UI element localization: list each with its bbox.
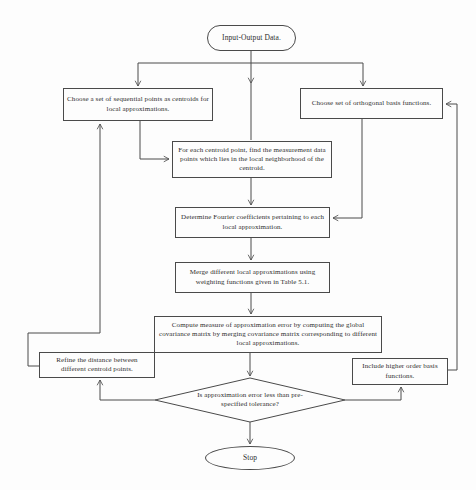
connector-higher-order-to-basis xyxy=(446,104,457,370)
node-choose-basis: Choose set of orthogonal basis functions… xyxy=(300,88,443,119)
node-compute-error: Compute measure of approximation error b… xyxy=(154,316,382,353)
node-start: Input-Output Data. xyxy=(207,25,296,51)
connector-decision-to-higher-order xyxy=(345,387,401,400)
node-start-label: Input-Output Data. xyxy=(222,33,281,43)
node-find-points-label: For each centroid point, find the measur… xyxy=(176,146,328,174)
node-fourier-label: Determine Fourier coefficients pertainin… xyxy=(179,213,326,231)
node-stop: Stop xyxy=(205,446,295,470)
node-decision: Is approximation error less than pre-spe… xyxy=(185,388,315,412)
node-higher-order: Include higher order basis functions. xyxy=(352,358,448,385)
node-refine: Refine the distance between different ce… xyxy=(39,352,155,378)
node-choose-centroids-label: Choose a set of sequential points as cen… xyxy=(67,95,209,113)
connector-decision-to-refine xyxy=(100,380,155,400)
node-choose-centroids: Choose a set of sequential points as cen… xyxy=(63,88,213,121)
connector-centroids-to-find-points xyxy=(140,121,169,159)
connector-refine-to-centroids xyxy=(28,124,100,366)
node-higher-order-label: Include higher order basis functions. xyxy=(356,362,444,380)
node-fourier: Determine Fourier coefficients pertainin… xyxy=(175,207,330,238)
node-choose-basis-label: Choose set of orthogonal basis functions… xyxy=(312,99,432,108)
node-merge-label: Merge different local approximations usi… xyxy=(179,268,326,286)
node-find-points: For each centroid point, find the measur… xyxy=(172,141,332,178)
connector-basis-to-fourier xyxy=(333,119,362,218)
node-merge: Merge different local approximations usi… xyxy=(175,262,330,293)
node-decision-label: Is approximation error less than pre-spe… xyxy=(185,391,315,409)
flowchart-connectors xyxy=(0,0,476,490)
flowchart-canvas: Input-Output Data. Choose a set of seque… xyxy=(0,0,476,490)
node-compute-error-label: Compute measure of approximation error b… xyxy=(158,321,378,349)
node-refine-label: Refine the distance between different ce… xyxy=(43,356,151,374)
node-stop-label: Stop xyxy=(243,453,257,463)
